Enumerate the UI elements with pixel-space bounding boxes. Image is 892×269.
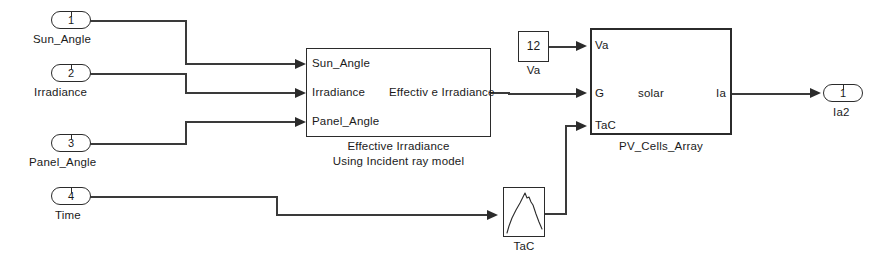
pv-input-label-g: G — [595, 87, 604, 99]
block-output-label-effective-irradiance: Effectiv e Irradiance — [389, 86, 487, 98]
block-caption-tac: TaC — [503, 240, 545, 252]
pv-input-label-tac: TaC — [595, 119, 616, 131]
inport-irradiance[interactable]: 2 — [51, 64, 91, 82]
arrow-tac-in — [576, 121, 587, 131]
outport-label-ia2: Ia2 — [833, 106, 850, 118]
arrow-panel-angle-in — [295, 117, 306, 127]
inport-label-irradiance: Irradiance — [34, 86, 87, 98]
arrow-irradiance-in — [295, 88, 306, 98]
wire-sun-angle-h1 — [90, 20, 187, 22]
wire-time-h1 — [90, 196, 278, 198]
arrow-va-in — [576, 41, 587, 51]
simulink-diagram-canvas: 1 Sun_Angle 2 Irradiance 3 Panel_Angle 4… — [0, 0, 892, 269]
inport-panel-angle[interactable]: 3 — [51, 134, 91, 152]
inport-tick — [71, 12, 72, 17]
outport-ia2[interactable]: 1 — [823, 84, 863, 102]
block-caption-effective-irradiance-line1: Effective Irradiance — [306, 140, 491, 152]
wire-eff-irr-h2 — [508, 93, 577, 95]
arrow-ia2-in — [810, 88, 821, 98]
wire-ia-out-h — [732, 93, 812, 95]
inport-tick — [71, 65, 72, 70]
arrow-sun-angle-in — [295, 59, 306, 69]
wire-panel-angle-h1 — [90, 143, 187, 145]
wire-irradiance-v — [185, 73, 187, 93]
inport-tick — [71, 135, 72, 140]
wire-panel-angle-h2 — [185, 121, 297, 123]
wire-sun-angle-h2 — [185, 63, 297, 65]
inport-sun-angle[interactable]: 1 — [51, 11, 91, 29]
block-input-label-irradiance: Irradiance — [312, 86, 365, 98]
block-caption-pv-cells-array: PV_Cells_Array — [590, 140, 732, 152]
block-caption-va: Va — [518, 64, 549, 76]
wire-tac-h1 — [545, 213, 567, 215]
pv-output-label-ia: Ia — [697, 87, 726, 99]
wire-tac-v — [565, 125, 567, 214]
arrow-g-in — [576, 88, 587, 98]
inport-tick — [71, 188, 72, 193]
outport-tick — [843, 85, 844, 90]
block-input-label-sun-angle: Sun_Angle — [312, 57, 370, 69]
block-caption-effective-irradiance-line2: Using Incident ray model — [306, 155, 491, 167]
wire-sun-angle-v — [185, 20, 187, 64]
wire-time-v — [276, 196, 278, 216]
va-constant-value: 12 — [518, 39, 549, 53]
wire-va-h — [548, 46, 577, 48]
wire-panel-angle-v — [185, 122, 187, 144]
pv-body-label-solar: solar — [638, 87, 664, 99]
inport-time[interactable]: 4 — [51, 187, 91, 205]
wire-irradiance-h1 — [90, 73, 187, 75]
wire-irradiance-h2 — [185, 92, 297, 94]
pv-input-label-va: Va — [595, 39, 609, 51]
wire-time-h2 — [276, 214, 488, 216]
inport-label-time: Time — [55, 209, 81, 221]
block-input-label-panel-angle: Panel_Angle — [312, 115, 379, 127]
tac-lookup-curve-icon — [504, 188, 544, 236]
arrow-time-in — [487, 210, 498, 220]
inport-label-sun-angle: Sun_Angle — [33, 33, 91, 45]
inport-label-panel-angle: Panel_Angle — [29, 156, 96, 168]
